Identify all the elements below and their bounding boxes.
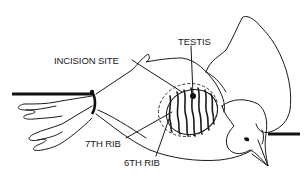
leg-band bbox=[92, 92, 95, 114]
label-7th-rib: 7TH RIB bbox=[85, 139, 121, 149]
label-incision-site: INCISION SITE bbox=[54, 56, 119, 66]
band-knot bbox=[90, 90, 94, 94]
testis-leader bbox=[191, 46, 193, 94]
label-testis: TESTIS bbox=[178, 37, 211, 47]
seventh-rib-leader bbox=[126, 112, 172, 138]
incision-site-leader bbox=[132, 60, 182, 92]
sixth-rib-leader bbox=[156, 116, 170, 156]
eye bbox=[244, 137, 249, 141]
feet bbox=[18, 96, 92, 151]
label-6th-rib: 6TH RIB bbox=[124, 158, 160, 168]
wing-outline bbox=[206, 16, 291, 132]
bird-incision-diagram: TESTIS INCISION SITE 7TH RIB 6TH RIB bbox=[0, 0, 308, 186]
head-outline bbox=[222, 100, 268, 166]
